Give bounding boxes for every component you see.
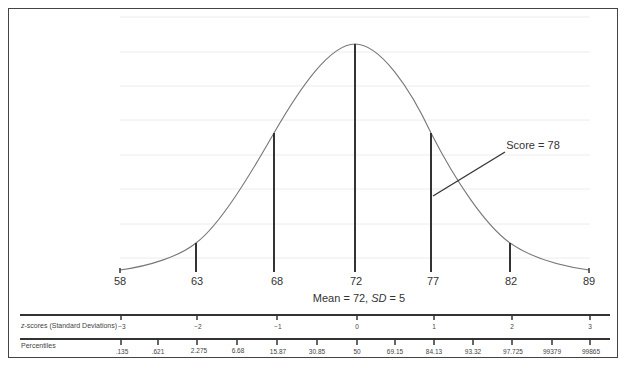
x-tick-82: 82 (505, 275, 517, 287)
x-tick-77: 77 (427, 275, 439, 287)
percentile-tick: 6.68 (232, 347, 245, 354)
percentile-tick: 50 (353, 348, 360, 355)
z-scores-title: z-scores (Standard Deviations) (21, 322, 117, 329)
percentile-tick: 15.87 (270, 348, 286, 355)
chart-svg (0, 0, 623, 366)
z-tick: −3 (118, 323, 125, 330)
percentile-tick: 99865 (582, 348, 600, 355)
z-tick: −1 (274, 323, 281, 330)
percentile-tick: 97.725 (503, 348, 523, 355)
score-annotation: Score = 78 (506, 139, 560, 151)
z-tick: 0 (355, 323, 359, 330)
x-tick-58: 58 (114, 275, 126, 287)
x-tick-68: 68 (271, 275, 283, 287)
percentile-tick: 2.275 (191, 347, 207, 354)
x-tick-72: 72 (350, 275, 362, 287)
z-tick: −2 (194, 323, 201, 330)
z-tick: 2 (510, 323, 514, 330)
percentile-tick: 84.13 (426, 348, 442, 355)
x-axis-caption: Mean = 72, SD = 5 (313, 292, 405, 304)
z-tick: 1 (432, 323, 436, 330)
percentile-tick: 30.85 (309, 348, 325, 355)
percentiles-title: Percentiles (21, 342, 56, 349)
x-tick-89: 89 (583, 275, 595, 287)
sd-markers (196, 44, 510, 272)
percentile-tick: .621 (152, 348, 165, 355)
z-tick: 3 (588, 323, 592, 330)
caption-sd-value: = 5 (387, 292, 406, 304)
x-tick-63: 63 (191, 275, 203, 287)
z-title-rest: -scores (Standard Deviations) (25, 322, 118, 329)
percentile-tick: 99379 (543, 348, 561, 355)
caption-mean: Mean = 72, (313, 292, 371, 304)
percentile-tick: 93.32 (465, 348, 481, 355)
percentile-tick: 69.15 (387, 348, 403, 355)
caption-sd: SD (371, 292, 386, 304)
percentile-tick: .135 (116, 348, 129, 355)
